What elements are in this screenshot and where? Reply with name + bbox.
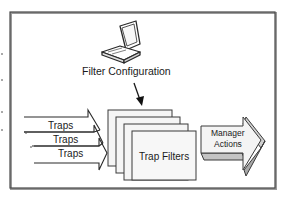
diagram-canvas: Filter Configuration Traps Traps Traps T…	[0, 0, 286, 197]
manager-actions-label-line1: Manager	[211, 129, 245, 138]
trap-label-3: Traps	[58, 149, 83, 159]
trap-filters-label: Trap Filters	[139, 152, 189, 162]
trap-label-2: Traps	[53, 135, 78, 145]
manager-actions-label-line2: Actions	[214, 140, 242, 149]
filter-configuration-label: Filter Configuration	[82, 66, 171, 77]
margin-tick-marks	[1, 54, 3, 130]
trap-label-1: Traps	[48, 121, 73, 131]
